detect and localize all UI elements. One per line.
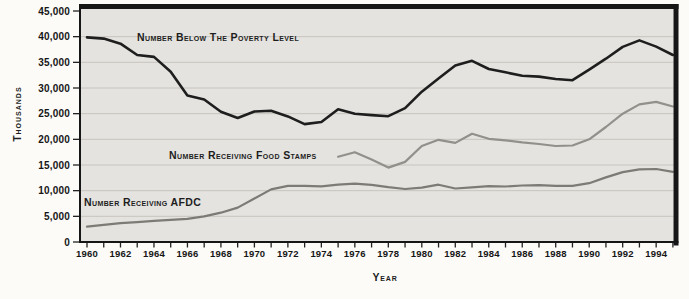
figure: 05,00010,00015,00020,00025,00030,00035,0… bbox=[0, 0, 689, 299]
x-tick-label: 1960 bbox=[76, 248, 98, 259]
x-tick-label: 1984 bbox=[478, 248, 500, 259]
x-tick-label: 1980 bbox=[411, 248, 433, 259]
x-tick-label: 1994 bbox=[645, 248, 667, 259]
y-tick-label: 25,000 bbox=[38, 108, 70, 119]
x-tick-label: 1964 bbox=[143, 248, 165, 259]
x-tick-label: 1986 bbox=[511, 248, 533, 259]
y-tick-label: 20,000 bbox=[38, 134, 70, 145]
x-tick-label: 1974 bbox=[310, 248, 332, 259]
y-tick-label: 15,000 bbox=[38, 160, 70, 171]
y-tick-label: 40,000 bbox=[38, 31, 70, 42]
x-tick-label: 1978 bbox=[377, 248, 399, 259]
y-axis-title: Thousands bbox=[12, 86, 23, 141]
y-tick-label: 35,000 bbox=[38, 57, 70, 68]
series-label-poverty: Number Below The Poverty Level bbox=[137, 31, 299, 43]
x-tick-label: 1966 bbox=[176, 248, 198, 259]
x-tick-label: 1970 bbox=[243, 248, 265, 259]
chart-canvas: 05,00010,00015,00020,00025,00030,00035,0… bbox=[0, 0, 689, 299]
y-tick-label: 5,000 bbox=[44, 211, 70, 222]
x-tick-label: 1962 bbox=[110, 248, 132, 259]
y-tick-label: 45,000 bbox=[38, 6, 70, 17]
x-tick-label: 1988 bbox=[545, 248, 567, 259]
x-tick-label: 1982 bbox=[444, 248, 466, 259]
y-tick-label: 0 bbox=[64, 237, 70, 248]
x-tick-label: 1968 bbox=[210, 248, 232, 259]
series-label-afdc: Number Receiving AFDC bbox=[84, 196, 201, 208]
series-label-food-stamps: Number Receiving Food Stamps bbox=[169, 149, 317, 161]
y-tick-label: 30,000 bbox=[38, 83, 70, 94]
x-tick-label: 1992 bbox=[612, 248, 634, 259]
x-axis-title: Year bbox=[373, 271, 398, 283]
x-tick-label: 1990 bbox=[578, 248, 600, 259]
x-tick-label: 1972 bbox=[277, 248, 299, 259]
x-tick-label: 1976 bbox=[344, 248, 366, 259]
y-tick-label: 10,000 bbox=[38, 185, 70, 196]
